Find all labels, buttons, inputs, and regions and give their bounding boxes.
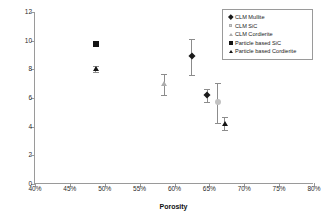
legend-item: CLM SiC (226, 22, 310, 30)
error-bar-cap (222, 130, 228, 131)
chart-legend: CLM MulliteCLM SiCCLM CordieriteParticle… (222, 9, 313, 60)
filled-square-icon (226, 39, 235, 47)
legend-item-label: CLM Mullite (235, 13, 265, 21)
x-tick-label: 50% (98, 186, 111, 193)
y-tick-label: 2 (28, 152, 32, 159)
legend-item: CLM Cordierite (226, 30, 310, 38)
y-tick-label: 6 (28, 95, 32, 102)
x-tick-label: 65% (203, 186, 216, 193)
error-bar-cap (189, 75, 195, 76)
legend-swatch-shape (229, 24, 233, 28)
legend-item: CLM Mullite (226, 13, 310, 21)
marker-open-triangle-icon (161, 81, 167, 86)
legend-item: Particle based SiC (226, 39, 310, 47)
x-tick-label: 75% (273, 186, 286, 193)
marker-filled-triangle-icon (93, 66, 99, 71)
marker-filled-triangle-icon (222, 121, 228, 126)
legend-item-label: CLM SiC (235, 22, 257, 30)
chart-container: Axial Compression Strength (MPa) 0246810… (0, 0, 322, 222)
y-tick-label: 4 (28, 123, 32, 130)
legend-swatch-shape (229, 41, 233, 45)
marker-open-square-icon (215, 99, 221, 105)
open-triangle-icon (226, 30, 235, 38)
error-bar-cap (215, 123, 221, 124)
x-tick-label: 40% (28, 186, 41, 193)
x-tick-label: 45% (63, 186, 76, 193)
legend-item-label: CLM Cordierite (235, 30, 273, 38)
legend-item: Particle based Cordierite (226, 47, 310, 55)
x-tick-label: 70% (238, 186, 251, 193)
x-tick-label: 60% (168, 186, 181, 193)
legend-swatch-shape (229, 33, 233, 36)
error-bar-cap (161, 74, 167, 75)
x-tick-label: 80% (307, 186, 320, 193)
legend-swatch-shape (229, 50, 233, 53)
y-tick-label: 10 (25, 37, 32, 44)
error-bar-cap (93, 72, 99, 73)
legend-item-label: Particle based SiC (235, 39, 281, 47)
legend-swatch-shape (228, 14, 233, 19)
y-tick-label: 8 (28, 66, 32, 73)
marker-filled-diamond-icon (204, 92, 211, 99)
error-bar-cap (161, 95, 167, 96)
marker-filled-square-icon (93, 41, 99, 47)
marker-filled-diamond-icon (188, 53, 195, 60)
filled-triangle-icon (226, 47, 235, 55)
error-bar-cap (204, 102, 210, 103)
error-bar-cap (215, 83, 221, 84)
error-bar-cap (189, 39, 195, 40)
y-tick-label: 12 (25, 9, 32, 16)
x-tick-label: 55% (133, 186, 146, 193)
x-axis-title: Porosity (34, 203, 313, 210)
open-square-icon (226, 22, 235, 30)
legend-item-label: Particle based Cordierite (235, 47, 296, 55)
diamond-icon (226, 13, 235, 21)
error-bar-cap (222, 117, 228, 118)
error-bar-cap (204, 89, 210, 90)
